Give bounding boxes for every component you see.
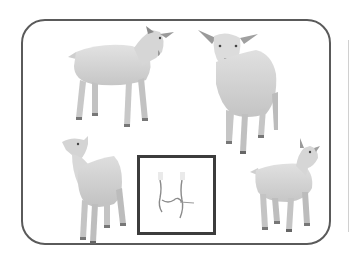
- goat-legs-sketch-icon: [140, 158, 213, 232]
- edge-divider: [348, 40, 349, 232]
- goat-bottom-left-image: [58, 134, 130, 244]
- center-sketch-box: [137, 155, 216, 235]
- goat-bottom-right-image: [248, 138, 324, 234]
- goat-top-left-image: [62, 22, 180, 130]
